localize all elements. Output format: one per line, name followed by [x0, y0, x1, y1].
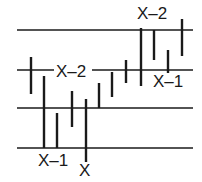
label-bottom-x: X [79, 161, 90, 180]
price-bar-diagram: X–2 X–1 X X–2 X–1 [0, 0, 202, 182]
label-bottom-x-minus-1: X–1 [38, 151, 68, 170]
label-right-x-minus-1: X–1 [153, 72, 183, 91]
label-top-x-minus-2: X–2 [137, 4, 167, 23]
label-left-x-minus-2: X–2 [56, 62, 86, 81]
